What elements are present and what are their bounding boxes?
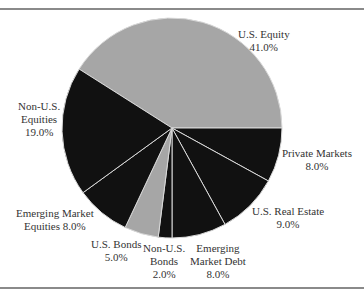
label-text: U.S. Bonds <box>91 238 141 251</box>
label-text: Market Debt <box>190 255 246 268</box>
label-value: 5.0% <box>91 251 141 264</box>
label-text: Emerging <box>190 242 246 255</box>
label-value: 8.0% <box>190 268 246 281</box>
label-em-equities: Emerging Market Equities 8.0% <box>16 207 94 233</box>
label-us-bonds: U.S. Bonds 5.0% <box>91 238 141 264</box>
label-us-real-estate: U.S. Real Estate 9.0% <box>252 205 324 231</box>
label-value: 9.0% <box>252 218 324 231</box>
label-value: 8.0% <box>282 160 352 173</box>
label-text: U.S. Real Estate <box>252 205 324 218</box>
label-value: 41.0% <box>238 41 290 54</box>
label-text: U.S. Equity <box>238 28 290 41</box>
label-value: 19.0% <box>18 126 60 139</box>
label-text: Bonds <box>143 255 185 268</box>
label-non-us-equities: Non-U.S. Equities 19.0% <box>18 100 60 139</box>
label-private-markets: Private Markets 8.0% <box>282 147 352 173</box>
label-non-us-bonds: Non-U.S. Bonds 2.0% <box>143 242 185 281</box>
label-value: 2.0% <box>143 268 185 281</box>
label-text: Non-U.S. <box>18 100 60 113</box>
label-text: Non-U.S. <box>143 242 185 255</box>
label-us-equity: U.S. Equity 41.0% <box>238 28 290 54</box>
label-value: Equities 8.0% <box>16 220 94 233</box>
label-text: Emerging Market <box>16 207 94 220</box>
label-em-debt: Emerging Market Debt 8.0% <box>190 242 246 281</box>
label-text: Equities <box>18 113 60 126</box>
label-text: Private Markets <box>282 147 352 160</box>
